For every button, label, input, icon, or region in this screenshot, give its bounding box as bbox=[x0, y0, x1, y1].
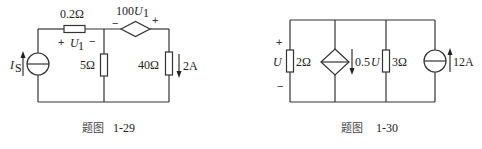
figure-1-29: I S 0.2Ω + U 1 − 5Ω 100 U 1 − + bbox=[9, 4, 198, 135]
u-label: U bbox=[273, 55, 283, 69]
resistor-0-2-ohm-value: 0.2Ω bbox=[60, 7, 84, 21]
resistor-5-ohm-value: 5Ω bbox=[80, 58, 95, 72]
is-label-sub: S bbox=[15, 61, 22, 75]
dep-source-prefix: 100 bbox=[116, 4, 134, 18]
resistor-2-ohm-value: 2Ω bbox=[296, 55, 311, 69]
arrow-down-icon bbox=[177, 71, 182, 78]
resistor-2-ohm: 2Ω bbox=[287, 50, 312, 72]
caption-prefix: 题图 bbox=[341, 122, 363, 135]
resistor-5-ohm: 5Ω bbox=[80, 54, 108, 76]
voltage-u-label: + U − bbox=[273, 36, 283, 92]
current-2a-label: 2A bbox=[183, 59, 198, 73]
resistor-3-ohm: 3Ω bbox=[383, 50, 408, 72]
dep-current-label: U bbox=[371, 55, 381, 69]
u1-minus-sign: − bbox=[89, 35, 95, 47]
caption-prefix: 题图 bbox=[82, 122, 104, 135]
resistor-40-ohm: 40Ω 2A bbox=[138, 52, 198, 78]
resistor-3-ohm-value: 3Ω bbox=[392, 55, 407, 69]
current-source-is: I S bbox=[9, 51, 49, 76]
resistor-0-2-ohm: 0.2Ω + U 1 − bbox=[58, 7, 95, 53]
dependent-voltage-source: 100 U 1 − + bbox=[112, 4, 158, 37]
circuit-diagrams: I S 0.2Ω + U 1 − 5Ω 100 U 1 − + bbox=[0, 0, 482, 149]
u-minus-sign: − bbox=[277, 80, 283, 92]
u1-label-sub: 1 bbox=[78, 39, 84, 53]
diamond-source-icon bbox=[121, 22, 150, 37]
figure-1-30: + U − 2Ω 0.5 U 3Ω 12A bbox=[273, 20, 474, 135]
u1-plus-sign: + bbox=[58, 36, 64, 48]
arrow-up-icon bbox=[21, 51, 26, 58]
dep-source-label-sub: 1 bbox=[143, 6, 149, 20]
dep-current-prefix: 0.5 bbox=[355, 55, 370, 69]
caption-number: 1-30 bbox=[376, 121, 398, 135]
current-12a-label: 12A bbox=[453, 55, 474, 69]
arrow-down-icon bbox=[350, 68, 355, 75]
caption-1-30: 题图 1-30 bbox=[341, 121, 398, 135]
dep-source-plus: + bbox=[152, 14, 158, 26]
dep-source-minus: − bbox=[112, 17, 118, 29]
caption-1-29: 题图 1-29 bbox=[82, 121, 135, 135]
dependent-current-source: 0.5 U bbox=[321, 49, 381, 75]
arrow-up-icon bbox=[448, 48, 453, 55]
resistor-40-ohm-value: 40Ω bbox=[138, 58, 159, 72]
caption-number: 1-29 bbox=[113, 121, 135, 135]
current-source-12a: 12A bbox=[424, 48, 474, 72]
u-plus-sign: + bbox=[276, 36, 282, 48]
